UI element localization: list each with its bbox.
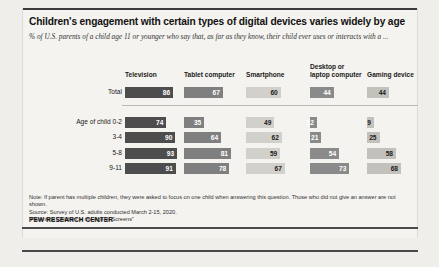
bar-value-label: 67 <box>213 87 223 98</box>
bar-desktop-or-laptop-computer: 21 <box>310 132 321 143</box>
bar-value-label: 9 <box>367 117 374 128</box>
bar-cell: 58 <box>367 148 417 159</box>
bar-cell: 54 <box>310 148 364 159</box>
top-rule <box>22 8 418 10</box>
bar-cell: 81 <box>184 148 242 159</box>
bar-gaming-device: 44 <box>367 87 389 98</box>
bar-value-label: 58 <box>386 148 396 159</box>
bar-tablet-computer: 67 <box>184 87 223 98</box>
bar-value-label: 90 <box>165 132 175 143</box>
pew-research-center-label: PEW RESEARCH CENTER <box>29 216 113 223</box>
column-header-line: Smartphone <box>246 71 318 79</box>
row-label-wrap: 5-8 <box>22 146 122 162</box>
bar-smartphone: 62 <box>246 132 282 143</box>
bar-cell: 68 <box>367 163 417 174</box>
chart-row: 3-49064622125 <box>22 130 418 146</box>
bar-cell: 59 <box>246 148 304 159</box>
bar-cell: 67 <box>184 87 242 98</box>
bar-cell: 86 <box>125 87 181 98</box>
bar-cell: 90 <box>125 132 181 143</box>
row-label-wrap: Age of child 0-2 <box>22 115 122 131</box>
column-header-row: TelevisionTablet computerSmartphoneDeskt… <box>22 63 418 85</box>
bar-value-label: 49 <box>264 117 274 128</box>
bar-value-label: 25 <box>369 132 379 143</box>
bar-desktop-or-laptop-computer: 54 <box>310 148 339 159</box>
chart-row: Total8667604444 <box>22 85 418 101</box>
bar-cell: 73 <box>310 163 364 174</box>
bar-television: 74 <box>125 117 166 128</box>
bar-value-label: 67 <box>275 163 285 174</box>
bar-value-label: 54 <box>329 148 339 159</box>
bar-desktop-or-laptop-computer: 73 <box>310 163 349 174</box>
row-label: 3-4 <box>22 133 122 140</box>
bar-value-label: 12 <box>307 117 317 128</box>
chart-plot-area: TelevisionTablet computerSmartphoneDeskt… <box>22 63 418 177</box>
bar-cell: 62 <box>246 132 304 143</box>
bar-value-label: 60 <box>270 87 280 98</box>
bar-tablet-computer: 64 <box>184 132 221 143</box>
bar-value-label: 35 <box>194 117 204 128</box>
bar-smartphone: 67 <box>246 163 285 174</box>
bar-cell: 12 <box>310 117 364 128</box>
row-label: Age of child 0-2 <box>22 118 122 125</box>
bar-value-label: 59 <box>270 148 280 159</box>
row-label-wrap: 3-4 <box>22 130 122 146</box>
note-line: Note: If parent has multiple children, t… <box>29 194 411 209</box>
bar-value-label: 78 <box>219 163 229 174</box>
column-header-smartphone: Smartphone <box>246 71 318 79</box>
bar-gaming-device: 25 <box>367 132 380 143</box>
bar-smartphone: 59 <box>246 148 280 159</box>
bar-cell: 60 <box>246 87 304 98</box>
row-label-wrap: Total <box>22 85 122 101</box>
bar-value-label: 64 <box>211 132 221 143</box>
bar-smartphone: 60 <box>246 87 281 98</box>
row-label: 9-11 <box>22 164 122 171</box>
bar-value-label: 93 <box>167 148 177 159</box>
chart-title: Children's engagement with certain types… <box>29 16 413 28</box>
bar-cell: 44 <box>310 87 364 98</box>
bar-value-label: 62 <box>272 132 282 143</box>
bar-value-label: 91 <box>166 163 176 174</box>
row-label: Total <box>22 88 122 95</box>
divider-line <box>122 105 418 106</box>
bar-cell: 44 <box>367 87 417 98</box>
page-rule <box>22 250 418 252</box>
bar-television: 93 <box>125 148 177 159</box>
bar-value-label: 73 <box>339 163 349 174</box>
bar-value-label: 68 <box>391 163 401 174</box>
row-group-separator <box>22 101 418 115</box>
bar-tablet-computer: 81 <box>184 148 231 159</box>
bar-value-label: 86 <box>163 87 173 98</box>
bar-value-label: 21 <box>311 132 321 143</box>
bar-cell: 9 <box>367 117 417 128</box>
bar-smartphone: 49 <box>246 117 274 128</box>
row-label: 5-8 <box>22 149 122 156</box>
chart-row: Age of child 0-2743549129 <box>22 115 418 131</box>
bar-television: 91 <box>125 163 176 174</box>
bar-cell: 91 <box>125 163 181 174</box>
column-header-gaming-device: Gaming device <box>367 71 431 79</box>
bar-cell: 21 <box>310 132 364 143</box>
bar-tablet-computer: 78 <box>184 163 229 174</box>
bar-value-label: 74 <box>156 117 166 128</box>
bar-desktop-or-laptop-computer: 44 <box>310 87 334 98</box>
column-header-line: Gaming device <box>367 71 431 79</box>
bar-cell: 67 <box>246 163 304 174</box>
bar-tablet-computer: 35 <box>184 117 204 128</box>
bar-value-label: 81 <box>221 148 231 159</box>
pew-figure-card: Children's engagement with certain types… <box>22 8 418 238</box>
bar-desktop-or-laptop-computer: 12 <box>310 117 317 128</box>
chart-row: 5-89381595458 <box>22 146 418 162</box>
column-header-line: Desktop or <box>310 63 378 71</box>
row-label-wrap: 9-11 <box>22 161 122 177</box>
bar-cell: 78 <box>184 163 242 174</box>
bar-value-label: 44 <box>379 87 389 98</box>
bar-cell: 93 <box>125 148 181 159</box>
bar-cell: 35 <box>184 117 242 128</box>
bar-value-label: 44 <box>323 87 333 98</box>
bar-television: 90 <box>125 132 175 143</box>
bar-cell: 74 <box>125 117 181 128</box>
chart-subtitle: % of U.S. parents of a child age 11 or y… <box>29 32 409 42</box>
bar-cell: 49 <box>246 117 304 128</box>
bar-cell: 64 <box>184 132 242 143</box>
